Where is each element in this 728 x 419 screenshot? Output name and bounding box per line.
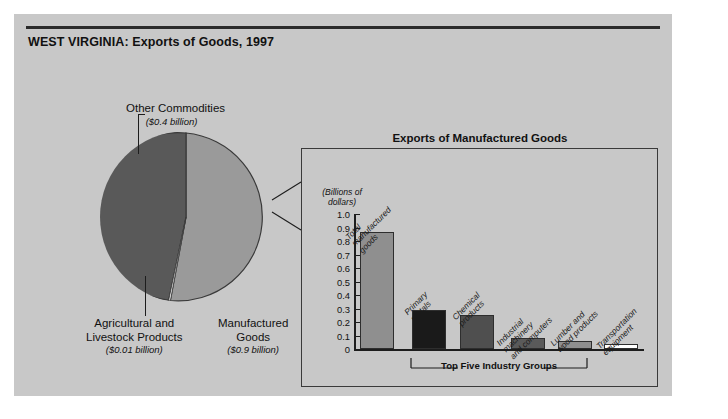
y-tick-label: 0.4 [337, 290, 350, 301]
pie-label-other-amount: ($0.4 billion) [118, 116, 225, 128]
figure-canvas: WEST VIRGINIA: Exports of Goods, 1997 Ot… [14, 14, 672, 396]
pie-label-agricultural: Agricultural and Livestock Products ($0.… [86, 317, 183, 356]
y-axis-units-label: (Billions of dollars) [311, 187, 373, 207]
y-tick-mark [356, 349, 360, 350]
pie-label-agricultural-line1: Agricultural and [94, 317, 174, 329]
y-tick-mark [356, 295, 360, 296]
y-tick-mark [356, 255, 360, 256]
y-tick-label: 0.5 [337, 276, 350, 287]
panel-title: Exports of Manufactured Goods [301, 132, 659, 144]
leader-line-agricultural [145, 276, 146, 316]
y-tick-label: 0 [345, 344, 350, 355]
pie-slice-other-commodities [100, 133, 186, 301]
title-rule [26, 26, 660, 29]
pie-label-manufactured-line2: Goods [236, 331, 270, 343]
y-tick-label: 0.1 [337, 330, 350, 341]
pie-label-other-text: Other Commodities [126, 102, 225, 114]
y-tick-mark [356, 336, 360, 337]
y-tick-label: 0.6 [337, 263, 350, 274]
industry-groups-bracket: Top Five Industry Groups [354, 354, 644, 380]
y-tick-mark [356, 322, 360, 323]
y-tick-label: 0.2 [337, 317, 350, 328]
y-axis-units-line1: (Billions of [322, 187, 362, 197]
y-tick-mark [356, 309, 360, 310]
pie-label-manufactured-line1: Manufactured [218, 317, 288, 329]
y-tick-mark [356, 282, 360, 283]
y-tick-label: 1.0 [337, 209, 350, 220]
y-tick-label: 0.7 [337, 249, 350, 260]
pie-label-manufactured-amount: ($0.9 billion) [218, 344, 288, 356]
page-title: WEST VIRGINIA: Exports of Goods, 1997 [28, 35, 274, 49]
y-tick-mark [356, 214, 360, 215]
pie-slices [100, 131, 272, 303]
pie-label-agricultural-line2: Livestock Products [86, 331, 183, 343]
pie-label-other-commodities: Other Commodities ($0.4 billion) [126, 102, 225, 128]
y-tick-mark [356, 268, 360, 269]
y-tick-label: 0.3 [337, 303, 350, 314]
bar-chart-panel: (Billions of dollars) 1.00.90.80.70.60.5… [301, 148, 658, 387]
bracket-label: Top Five Industry Groups [354, 360, 644, 371]
bar-plot-area: 1.00.90.80.70.60.50.40.30.20.10 Totalman… [354, 214, 644, 349]
pie-chart [100, 131, 272, 303]
bar-label: Industrialmachineryand computers [495, 302, 554, 361]
pie-label-agricultural-amount: ($0.01 billion) [86, 344, 183, 356]
pie-label-manufactured-goods: Manufactured Goods ($0.9 billion) [218, 317, 288, 356]
y-axis-units-line2: dollars) [328, 197, 356, 207]
